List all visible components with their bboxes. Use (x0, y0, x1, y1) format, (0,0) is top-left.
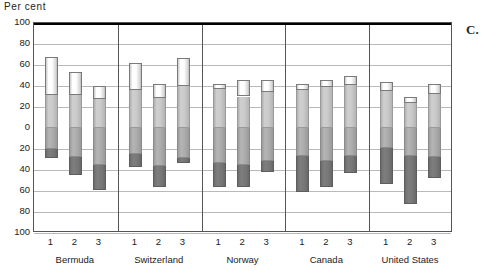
bar-segment-positive-upper (45, 57, 58, 96)
x-tick-label: 2 (63, 236, 87, 247)
bar-segment-negative-light (296, 128, 309, 156)
bar-segment-negative-light (320, 128, 333, 161)
x-tick-label: 3 (87, 236, 111, 247)
bar-segment-positive-upper (129, 63, 142, 90)
bar-segment-negative-light (129, 128, 142, 154)
bar-segment-negative-dark (428, 157, 441, 178)
x-tick-label: 1 (290, 236, 314, 247)
y-tick-label: 60 (2, 185, 30, 195)
bar-segment-positive-lower (45, 95, 58, 128)
bar-segment-negative-light (237, 128, 250, 165)
bar-segment-negative-dark (344, 156, 357, 173)
bar-segment-positive-lower (237, 97, 250, 129)
group-label: United States (368, 254, 452, 265)
group-label: Canada (284, 254, 368, 265)
bar[interactable] (45, 23, 58, 233)
bar[interactable] (213, 23, 226, 233)
bar-segment-negative-light (45, 128, 58, 149)
gridline (34, 233, 451, 234)
bar-segment-negative-dark (93, 165, 106, 190)
bar[interactable] (237, 23, 250, 233)
bar-segment-positive-upper (153, 84, 166, 98)
bar-segment-positive-lower (93, 99, 106, 128)
x-tick-label: 3 (254, 236, 278, 247)
x-tick-label: 1 (374, 236, 398, 247)
bar-segment-positive-lower (129, 90, 142, 128)
bar-segment-negative-dark (380, 148, 393, 184)
bar-segment-negative-light (153, 128, 166, 166)
bar-segment-positive-lower (69, 95, 82, 128)
y-tick-label: 80 (2, 38, 30, 48)
y-tick-label: 40 (2, 164, 30, 174)
x-tick-label: 1 (39, 236, 63, 247)
y-axis-tick-labels: 10080604020020406080100 (0, 0, 30, 271)
y-tick-label: 40 (2, 80, 30, 90)
bar-segment-negative-dark (129, 154, 142, 167)
x-tick-label: 2 (146, 236, 170, 247)
bar-segment-positive-upper (93, 86, 106, 99)
y-tick-label: 100 (2, 17, 30, 27)
y-tick-label: 20 (2, 101, 30, 111)
group-separator (202, 23, 203, 231)
bar-segment-negative-dark (296, 156, 309, 192)
bar[interactable] (320, 23, 333, 233)
bar-segment-negative-dark (213, 163, 226, 187)
bar-segment-negative-light (213, 128, 226, 163)
bar-segment-negative-light (177, 128, 190, 158)
bar-segment-positive-lower (344, 85, 357, 128)
bar-segment-negative-dark (45, 149, 58, 158)
bar-segment-positive-lower (428, 94, 441, 128)
group-label: Bermuda (33, 254, 117, 265)
bar-segment-negative-dark (261, 161, 274, 173)
x-tick-label: 3 (422, 236, 446, 247)
bar-segment-positive-upper (428, 84, 441, 95)
bar-segment-negative-dark (69, 157, 82, 175)
bar-segment-negative-light (69, 128, 82, 157)
bar-segment-positive-upper (177, 58, 190, 86)
bar[interactable] (153, 23, 166, 233)
group-label: Switzerland (117, 254, 201, 265)
bar[interactable] (344, 23, 357, 233)
bar-segment-negative-light (261, 128, 274, 161)
bar-segment-positive-lower (296, 90, 309, 128)
y-tick-label: 80 (2, 206, 30, 216)
y-tick-label: 20 (2, 143, 30, 153)
bar-segment-positive-lower (404, 103, 417, 128)
x-tick-label: 1 (206, 236, 230, 247)
plot-area (33, 22, 452, 232)
bar-segment-negative-light (93, 128, 106, 165)
zero-baseline (34, 23, 451, 25)
x-tick-label: 2 (314, 236, 338, 247)
y-tick-label: 0 (2, 122, 30, 132)
y-tick-label: 60 (2, 59, 30, 69)
bar-segment-negative-dark (237, 165, 250, 187)
y-tick-label: 100 (2, 227, 30, 237)
bar[interactable] (428, 23, 441, 233)
bar[interactable] (404, 23, 417, 233)
bar-segment-negative-light (404, 128, 417, 156)
bar[interactable] (69, 23, 82, 233)
bar-segment-positive-lower (261, 92, 274, 128)
group-separator (118, 23, 119, 231)
bar[interactable] (296, 23, 309, 233)
bar[interactable] (380, 23, 393, 233)
bar-segment-negative-dark (320, 161, 333, 187)
group-separator (369, 23, 370, 231)
chart-figure: Per cent C. 10080604020020406080100 1231… (0, 0, 493, 271)
bar-segment-negative-light (344, 128, 357, 156)
bar-segment-positive-lower (320, 87, 333, 128)
group-separator (285, 23, 286, 231)
bar-segment-positive-lower (380, 91, 393, 128)
bar-segment-positive-upper (237, 80, 250, 97)
bar-segment-negative-light (380, 128, 393, 148)
bar-segment-negative-dark (404, 156, 417, 203)
bar[interactable] (177, 23, 190, 233)
bar-segment-positive-upper (320, 80, 333, 87)
bar[interactable] (93, 23, 106, 233)
x-tick-label: 1 (122, 236, 146, 247)
x-tick-label: 2 (230, 236, 254, 247)
bar-segment-positive-lower (213, 89, 226, 128)
bar[interactable] (129, 23, 142, 233)
bar[interactable] (261, 23, 274, 233)
bar-segment-negative-light (428, 128, 441, 157)
